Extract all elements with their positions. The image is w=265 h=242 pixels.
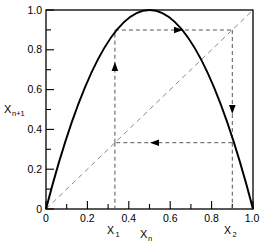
marker-label-x2-subscript: 2 [233,230,237,239]
x-tick-label: 0.6 [163,212,178,224]
x-tick-label: 0.4 [121,212,136,224]
y-tick-label: 0.8 [27,43,42,55]
y-axis-ticks [46,10,54,209]
point-marker-labels: X 1 X 2 [107,224,237,239]
arrow-down-icon [229,105,236,114]
y-axis-title: X n+1 [4,103,25,118]
y-axis-title-subscript: n+1 [12,109,25,118]
y-tick-label: 0.2 [27,163,42,175]
cobweb-segments [115,30,232,209]
x-axis-ticks [46,201,253,209]
x-axis-title: X n [140,228,152,242]
y-tick-label: 0.6 [27,83,42,95]
marker-label-x1: X [107,224,114,236]
x-axis-title-text: X [140,228,148,240]
x-tick-label: 0.2 [80,212,95,224]
cobweb-plot-figure: 0 0.2 0.4 0.6 0.8 1.0 0 0.2 0.4 0.6 0.8 … [0,0,265,242]
arrow-left-icon [150,139,159,146]
x-tick-label: 0 [43,212,49,224]
y-tick-label: 0.4 [27,123,42,135]
marker-label-x1-subscript: 1 [116,230,120,239]
arrow-up-icon [112,62,119,71]
x-tick-labels: 0 0.2 0.4 0.6 0.8 1.0 [43,212,259,224]
y-tick-labels: 0 0.2 0.4 0.6 0.8 1.0 [27,4,42,215]
y-tick-label: 1.0 [27,4,42,16]
x-tick-label: 0.8 [204,212,219,224]
x-tick-label: 1.0 [245,212,260,224]
y-axis-title-text: X [4,103,12,115]
cobweb-plot-svg: 0 0.2 0.4 0.6 0.8 1.0 0 0.2 0.4 0.6 0.8 … [0,0,265,242]
marker-label-x2: X [224,224,231,236]
y-tick-label: 0 [36,203,42,215]
x-axis-title-subscript: n [148,234,152,242]
